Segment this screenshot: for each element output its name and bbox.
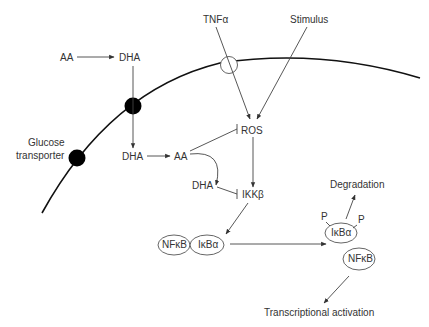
label-ikkb: IKKβ: [242, 189, 264, 200]
phospho-link-1: [326, 222, 330, 226]
label-nfkb-1: NFκB: [162, 239, 187, 250]
arrow-degradation: [346, 195, 355, 219]
arrow-tnf-ros: [216, 27, 250, 119]
label-nfkb-2: NFκB: [348, 253, 373, 264]
label-ikba-2: IκBα: [331, 227, 351, 238]
label-dha-in: DHA: [122, 151, 143, 162]
arrow-transcription: [324, 276, 349, 303]
label-stimulus: Stimulus: [290, 14, 328, 25]
tnf-receptor: [221, 57, 238, 74]
inhibit-aa-ros: [190, 129, 237, 151]
inhibit-dha-ikkb: [217, 187, 237, 194]
label-dha-mid: DHA: [192, 180, 213, 191]
arrow-ikkb-complex: [226, 203, 248, 234]
diagram-canvas: TNFα Stimulus AA DHA Glucose transporter…: [0, 0, 429, 327]
label-glucose: Glucose: [28, 137, 65, 148]
label-dha-out: DHA: [119, 52, 140, 63]
pathway-diagram: TNFα Stimulus AA DHA Glucose transporter…: [0, 0, 429, 327]
arrow-stimulus-ros: [257, 27, 307, 119]
label-transcription: Transcriptional activation: [264, 307, 374, 318]
glucose-transporter-2: [69, 150, 86, 167]
label-ikba-1: IκBα: [198, 239, 218, 250]
label-aa-in: AA: [174, 151, 188, 162]
label-transporter: transporter: [16, 150, 65, 161]
label-degradation: Degradation: [330, 179, 384, 190]
label-p1: P: [321, 211, 328, 222]
label-p2: P: [358, 214, 365, 225]
label-ros: ROS: [241, 125, 263, 136]
label-tnf: TNFα: [203, 14, 228, 25]
label-aa-out: AA: [60, 52, 74, 63]
